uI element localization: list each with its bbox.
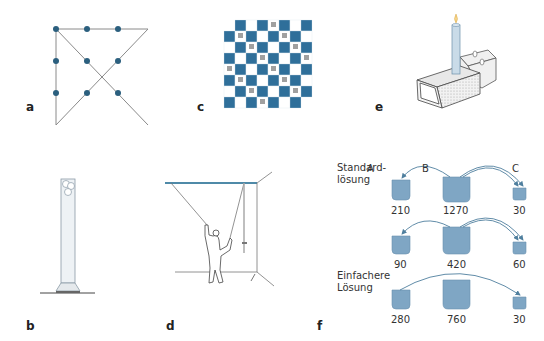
panel-f-water-jugs: A B C Standard- lösung Einfachere Lösung… [330,160,544,341]
panel-label-a: a [26,100,34,114]
row-label-simpler-line2: Lösung [337,282,373,293]
value-b-row1: 1270 [443,205,468,216]
value-c-row1: 30 [513,205,526,216]
panel-b-tube: b [0,170,180,341]
jug-a-row3 [392,290,410,309]
row-label-standard-line1: Standard- [337,162,386,173]
value-b-row2: 420 [447,259,466,270]
value-c-row2: 60 [513,259,526,270]
panel-label-c: c [197,100,204,114]
panel-c-checkerboard: c [180,0,360,170]
nine-dot-diagram [0,0,180,170]
panel-label-f: f [317,319,322,333]
panel-label-b: b [26,319,35,333]
jug-c-row2 [513,242,526,254]
panel-label-d: d [166,319,175,333]
value-c-row3: 30 [513,314,526,325]
value-b-row3: 760 [447,314,466,325]
value-a-row1: 210 [391,205,410,216]
candle-box-diagram [360,0,544,170]
tube-diagram [0,170,180,341]
jug-a-row2 [392,236,410,254]
row-label-standard-line2: lösung [337,174,370,185]
panel-label-e: e [375,100,383,114]
panel-e-candle: e [360,0,544,170]
panel-a-nine-dot: a [0,0,180,170]
jug-b-row3 [443,280,470,309]
checkerboard-diagram [180,0,360,170]
column-label-c: C [512,163,519,174]
row-label-simpler-line1: Einfachere [337,270,390,281]
jug-b-row2 [443,227,470,254]
jug-a-row1 [392,180,410,200]
value-a-row2: 90 [394,259,407,270]
jug-c-row3 [513,297,526,309]
column-label-b: B [422,163,429,174]
value-a-row3: 280 [391,314,410,325]
jug-c-row1 [513,188,526,200]
jug-b-row1 [443,177,470,202]
water-jug-diagram [330,160,544,341]
